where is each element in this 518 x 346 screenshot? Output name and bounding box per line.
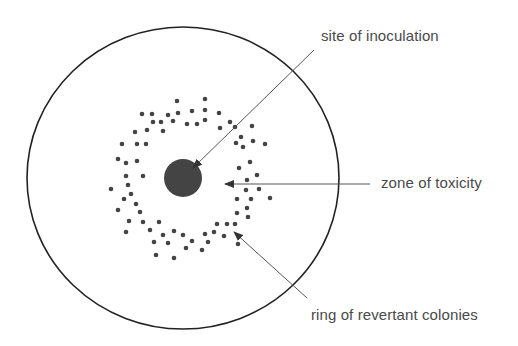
- colony-dot: [195, 122, 200, 127]
- colony-dot: [127, 219, 132, 224]
- colony-dot: [161, 233, 166, 238]
- colony-dot: [175, 99, 180, 104]
- colony-dot: [166, 113, 171, 118]
- colony-dot: [249, 197, 254, 202]
- colony-dot: [257, 187, 262, 192]
- colony-dot: [150, 112, 155, 117]
- colony-dot: [166, 241, 171, 246]
- colony-dot: [245, 178, 250, 183]
- colony-dot: [124, 161, 129, 166]
- colony-dot: [215, 222, 220, 227]
- colony-dot: [145, 128, 150, 133]
- colony-dot: [218, 126, 223, 131]
- colony-dot: [228, 120, 233, 125]
- colony-dot: [246, 215, 251, 220]
- colony-dot: [126, 183, 131, 188]
- colony-dot: [135, 159, 140, 164]
- colony-dot: [185, 122, 190, 127]
- colony-dot: [234, 141, 239, 146]
- colony-dot: [152, 240, 157, 245]
- colony-dot: [141, 220, 146, 225]
- colony-dot: [124, 174, 129, 179]
- colony-dot: [203, 108, 208, 113]
- label-site-of-inoculation: site of inoculation: [321, 27, 439, 44]
- colony-dot: [109, 187, 114, 192]
- colony-dot: [268, 196, 273, 201]
- colony-dot: [239, 135, 244, 140]
- colony-dot: [250, 124, 255, 129]
- colony-dot: [154, 253, 159, 258]
- colony-dot: [206, 240, 211, 245]
- colony-dot: [144, 142, 149, 147]
- colony-dot: [251, 139, 256, 144]
- colony-dot: [203, 232, 208, 237]
- colony-dot: [172, 256, 177, 261]
- colony-dot: [245, 206, 250, 211]
- diagram-canvas: site of inoculation zone of toxicity rin…: [0, 0, 518, 346]
- leader-line-site: [193, 50, 314, 168]
- colony-dot: [116, 157, 121, 162]
- colony-dot: [235, 197, 240, 202]
- colony-dot: [120, 142, 125, 147]
- colony-dot: [248, 160, 253, 165]
- colony-dot: [171, 119, 176, 124]
- colony-dot: [161, 129, 166, 134]
- colony-dot: [225, 222, 230, 227]
- colony-dot: [134, 202, 139, 207]
- label-zone-of-toxicity: zone of toxicity: [381, 174, 482, 191]
- colony-dot: [203, 118, 208, 123]
- colony-dot: [151, 120, 156, 125]
- colony-dot: [233, 222, 238, 227]
- colony-dot: [244, 188, 249, 193]
- colony-dot: [190, 239, 195, 244]
- colony-dot: [172, 229, 177, 234]
- colony-dot: [116, 208, 121, 213]
- colony-dot: [236, 242, 241, 247]
- leader-lines: [193, 50, 370, 298]
- colony-dot: [184, 246, 189, 251]
- colony-dot: [255, 173, 260, 178]
- colony-dot: [203, 97, 208, 102]
- label-ring-of-revertant-colonies: ring of revertant colonies: [311, 306, 478, 323]
- colony-dot: [263, 142, 268, 147]
- colony-dot: [176, 111, 181, 116]
- colony-dot: [237, 166, 242, 171]
- colony-dot: [157, 220, 162, 225]
- colony-dot: [212, 230, 217, 235]
- leader-line-ring: [234, 232, 307, 298]
- colony-dot: [122, 197, 127, 202]
- colony-dot: [133, 130, 138, 135]
- colony-dot: [135, 142, 140, 147]
- colony-dot: [222, 234, 227, 239]
- colony-dot: [129, 192, 134, 197]
- colony-dot: [148, 228, 153, 233]
- colony-dot: [124, 230, 129, 235]
- plate-diagram: [0, 0, 518, 346]
- colony-dot: [138, 210, 143, 215]
- colony-dot: [235, 211, 240, 216]
- colony-dot: [159, 120, 164, 125]
- colony-dot: [200, 248, 205, 253]
- colony-dot: [140, 112, 145, 117]
- colony-dot: [181, 233, 186, 238]
- colony-dot: [190, 109, 195, 114]
- colony-dot: [241, 145, 246, 150]
- colony-dot: [141, 174, 146, 179]
- colony-dot: [217, 111, 222, 116]
